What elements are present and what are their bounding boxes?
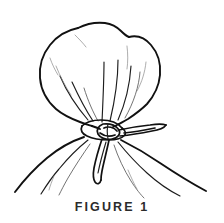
figure-page: FIGURE 1: [0, 0, 224, 223]
line-drawing: [0, 0, 224, 200]
figure-caption-text: FIGURE 1: [75, 200, 149, 215]
illustration-area: [0, 0, 224, 200]
figure-caption: FIGURE 1: [0, 200, 224, 223]
